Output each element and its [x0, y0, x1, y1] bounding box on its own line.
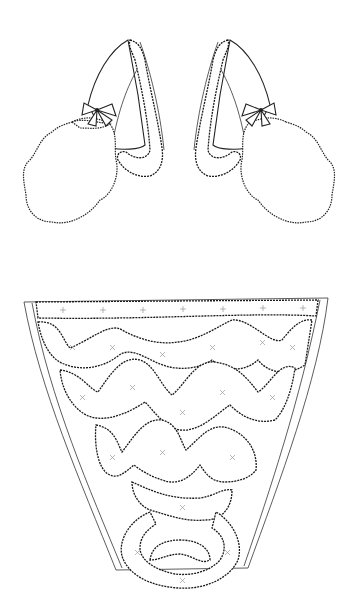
right-sleeve-ruffle: [194, 40, 335, 223]
left-sleeve-ruffle: [24, 40, 165, 223]
stomacher: [24, 298, 328, 588]
line-drawing: [0, 0, 358, 614]
illustration-canvas: lace stomacher and pair of sleeve ruffle…: [0, 0, 358, 614]
